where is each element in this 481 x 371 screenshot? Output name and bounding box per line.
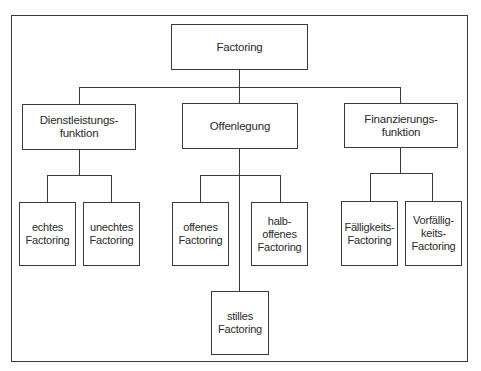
connector-to-offenes	[200, 175, 201, 202]
connector-finanz-down	[400, 148, 401, 173]
connector-to-finanz	[400, 87, 401, 104]
connector-to-unechtes	[111, 175, 112, 202]
node-factoring: Factoring	[171, 24, 308, 70]
connector-finanz-bar	[370, 173, 432, 174]
connector-to-halboffenes	[280, 175, 281, 202]
connector-dienst-down	[79, 150, 80, 175]
connector-offen-bar	[200, 175, 280, 176]
connector-level1-bar	[79, 87, 401, 88]
node-echtes-factoring: echtes Factoring	[19, 202, 76, 266]
node-offenlegung: Offenlegung	[182, 103, 298, 149]
node-faelligkeits-factoring: Fälligkeits- Factoring	[341, 201, 398, 266]
node-dienstleistungsfunktion: Dienstleistungs- funktion	[22, 104, 136, 150]
node-halboffenes-factoring: halb- offenes Factoring	[251, 202, 308, 266]
node-vorfaelligkeits-factoring: Vorfällig- keits- Factoring	[405, 201, 462, 266]
connector-to-echtes	[47, 175, 48, 202]
connector-offen-down	[239, 149, 240, 291]
node-finanzierungsfunktion: Finanzierungs- funktion	[344, 103, 458, 148]
connector-to-vorfaellig	[432, 173, 433, 201]
node-unechtes-factoring: unechtes Factoring	[83, 202, 140, 266]
connector-to-faelligkeits	[370, 173, 371, 201]
connector-dienst-bar	[47, 175, 111, 176]
node-offenes-factoring: offenes Factoring	[172, 202, 229, 266]
connector-to-dienst	[79, 87, 80, 104]
node-stilles-factoring: stilles Factoring	[211, 291, 269, 355]
